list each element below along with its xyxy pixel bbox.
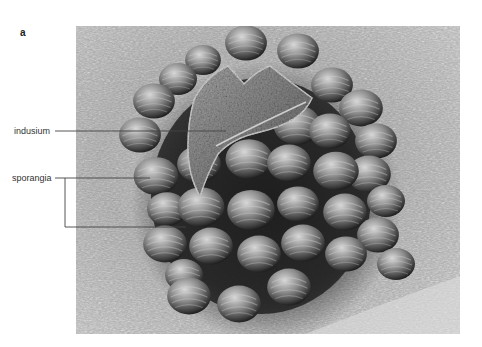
panel-letter: a (20, 27, 26, 38)
label-sporangia: sporangia (12, 173, 52, 183)
sem-micrograph (76, 26, 460, 334)
label-indusium: indusium (14, 126, 50, 136)
